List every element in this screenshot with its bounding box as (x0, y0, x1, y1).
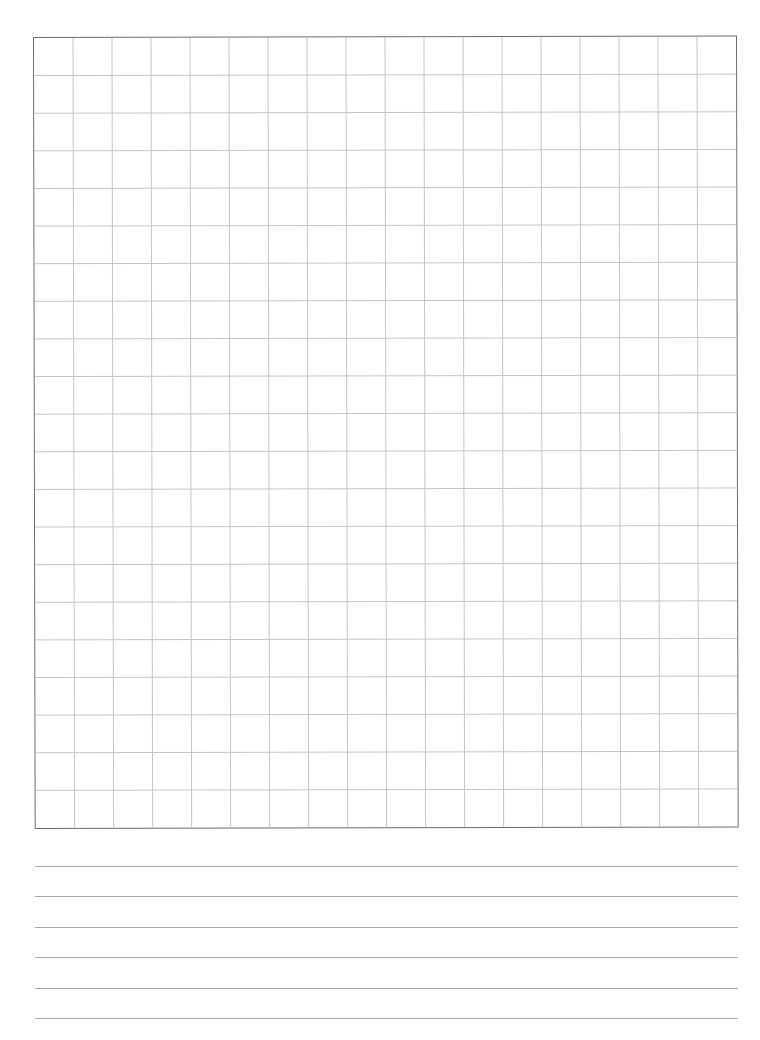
ruled-writing-lines (35, 0, 738, 1040)
writing-line (35, 866, 738, 867)
writing-line (35, 896, 738, 897)
writing-line (35, 957, 738, 958)
writing-line (35, 927, 738, 928)
writing-line (35, 1018, 738, 1019)
writing-line (35, 988, 738, 989)
worksheet-page (0, 0, 760, 1040)
